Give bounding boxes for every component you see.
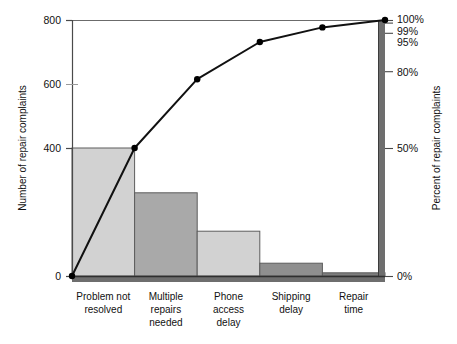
y2tick-label-95: 95% — [397, 36, 418, 48]
y2tick-label-100: 100% — [397, 13, 424, 25]
left-axis-title: Number of repair complaints — [17, 85, 28, 211]
ytick-label-400: 400 — [43, 142, 61, 154]
ytick-label-600: 600 — [43, 78, 61, 90]
cat-label-3-line-1: delay — [279, 304, 303, 315]
cat-label-0-line-1: resolved — [84, 304, 122, 315]
cat-label-1-line-0: Multiple — [149, 291, 184, 302]
cat-label-2-line-2: delay — [217, 317, 241, 328]
ytick-label-0: 0 — [55, 270, 61, 282]
cat-label-2-line-0: Phone — [214, 291, 243, 302]
ytick-label-800: 800 — [43, 14, 61, 26]
bar-phone-access-delay — [197, 231, 260, 276]
y2tick-label-50: 50% — [397, 142, 418, 154]
cat-label-1-line-2: needed — [149, 317, 182, 328]
cat-label-2-line-1: access — [213, 304, 244, 315]
bar-shipping-delay — [260, 263, 323, 276]
cat-label-4-line-0: Repair — [339, 291, 369, 302]
y2tick-label-80: 80% — [397, 66, 418, 78]
cat-label-3-line-0: Shipping — [272, 291, 311, 302]
y2tick-label-99: 99% — [397, 25, 418, 37]
bar-multiple-repairs-needed — [135, 193, 198, 276]
y2tick-label-0: 0% — [397, 270, 412, 282]
bar-repair-time — [322, 273, 385, 276]
category-labels: Problem not resolved Multiple repairs ne… — [76, 291, 369, 328]
right-axis-ticks — [385, 21, 393, 277]
cat-label-4-line-1: time — [344, 304, 363, 315]
right-axis-title: Percent of repair complaints — [431, 86, 442, 211]
right-spine — [378, 20, 385, 276]
chart-canvas: 800 600 400 0 100% 99% 95% 80% 50% 0% — [0, 0, 457, 344]
cat-label-0-line-0: Problem not — [76, 291, 130, 302]
cat-label-1-line-1: repairs — [151, 304, 182, 315]
pareto-chart: 800 600 400 0 100% 99% 95% 80% 50% 0% — [0, 0, 457, 344]
